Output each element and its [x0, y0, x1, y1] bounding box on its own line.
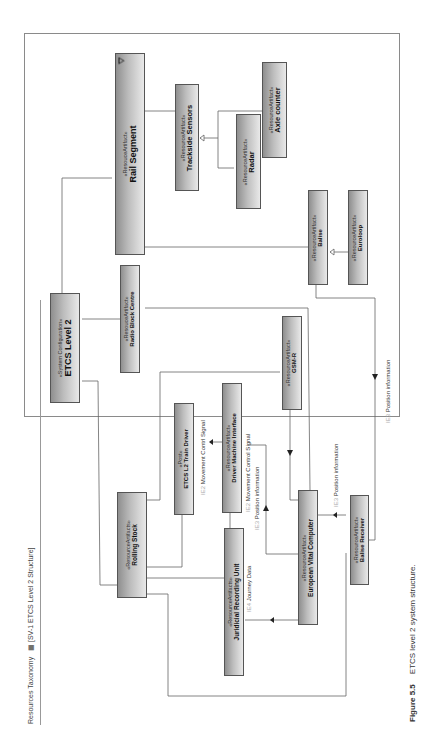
node-juridicial-recording-unit[interactable]: «ResourceArtifacts» Juridicial Recording…	[224, 528, 244, 676]
node-rail-segment[interactable]: ⛛ «ResouceArtifact» Rail Segment	[115, 53, 145, 255]
node-rolling-stock[interactable]: «ResourceArtifacts» Rolling Stock	[117, 492, 147, 598]
flow-label: IE3 Position information	[385, 360, 391, 423]
node-balise-receiver[interactable]: «ResourceArtifact» Balise Receiver	[350, 495, 369, 585]
node-radio-block-centre[interactable]: «ResouceArtifact» Radio Block Centre	[120, 265, 140, 373]
node-euroloop[interactable]: «ResourceArtifact» Euroloop	[348, 190, 368, 285]
node-gsm-r[interactable]: «ResourceArtifact» GSM-R	[282, 316, 302, 410]
flow-label: IE4 Journey Data	[246, 566, 252, 612]
node-driver-machine-interface[interactable]: «ResourceArtifact» Driver Machine Interf…	[222, 383, 242, 513]
flow-label: IE3 Position information	[254, 467, 260, 530]
node-radar[interactable]: «ResourceArtifact» Radar	[236, 114, 261, 209]
node-axle-counter[interactable]: «ResourceArtifact» Axle counter	[262, 62, 287, 158]
node-european-vital-computer[interactable]: «ResourceArtifact» European Vital Comput…	[298, 490, 318, 625]
node-trackside-sensors[interactable]: «ResourceArtifact» Trackside Sensors	[175, 84, 199, 191]
node-etcs-level-2[interactable]: «System Configuration» ETCS Level 2	[50, 293, 80, 403]
resource-icon: ⛛	[118, 57, 127, 65]
flow-label: IE2 Movement Contrl Signal	[200, 420, 206, 495]
flow-label: IE3 Position information	[333, 444, 339, 507]
node-etcs-l2-train-driver[interactable]: «Post» ETCS L2 Train Driver	[174, 403, 194, 515]
flow-label: IE2 Movement Control Signal	[245, 434, 251, 512]
figure-caption: Figure 5.5ETCS level 2 system structure.	[408, 564, 417, 722]
node-balise[interactable]: «ResourceArtifact» Balise	[308, 190, 328, 285]
